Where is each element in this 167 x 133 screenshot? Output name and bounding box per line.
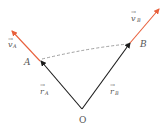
- dashed-chord-ab: [42, 44, 128, 59]
- label-va: → v A: [8, 35, 17, 49]
- point-label-a: A: [23, 57, 31, 67]
- label-vb: → v B: [131, 8, 141, 23]
- velocity-diagram: → v A A → v B B → r A → r B O: [0, 0, 167, 133]
- va-subscript: A: [12, 43, 17, 49]
- label-rb: → r B: [110, 81, 119, 96]
- label-ra: → r A: [40, 81, 49, 96]
- point-label-b: B: [139, 39, 147, 49]
- origin-label: O: [79, 115, 86, 125]
- position-vector-rb: [82, 43, 130, 109]
- vb-symbol: v: [131, 14, 136, 23]
- ra-subscript: A: [44, 90, 49, 96]
- rb-subscript: B: [114, 90, 119, 96]
- position-vector-ra: [41, 61, 82, 109]
- vb-subscript: B: [136, 17, 141, 23]
